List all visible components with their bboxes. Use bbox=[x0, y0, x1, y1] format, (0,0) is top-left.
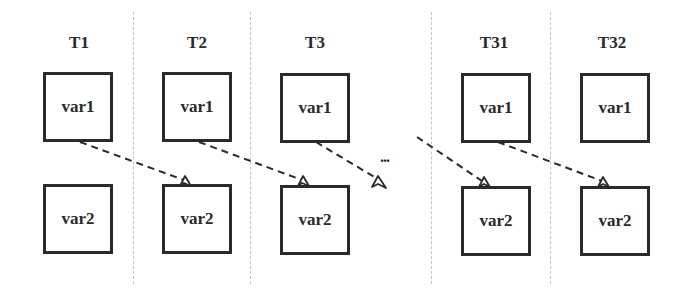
edge-layer bbox=[0, 0, 683, 293]
edge-t3-ellipsis bbox=[316, 142, 376, 178]
edge-t1-t2 bbox=[80, 142, 184, 180]
ellipsis-marker: ... bbox=[380, 148, 389, 166]
edge-t31-t32 bbox=[498, 142, 602, 181]
arrowhead-icon bbox=[298, 176, 309, 186]
arrowhead-icon bbox=[598, 177, 609, 187]
arrowhead-icon bbox=[180, 176, 191, 186]
arrowhead-icon bbox=[372, 176, 386, 188]
arrowhead-icon bbox=[479, 177, 490, 187]
edge-t2-t3 bbox=[199, 142, 302, 180]
time-unrolled-diagram: T1 T2 T3 T31 T32 var1 var1 var1 var1 var… bbox=[0, 0, 683, 293]
edge-ellipsis-t31 bbox=[417, 137, 482, 181]
